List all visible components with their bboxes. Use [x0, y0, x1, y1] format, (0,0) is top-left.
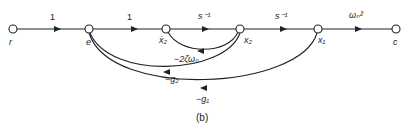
gain-label-x2dot-x2: s⁻¹: [198, 12, 211, 21]
node-x2: [236, 25, 244, 33]
node-label-r: r: [9, 38, 12, 47]
gain-label-r-e: 1: [50, 13, 55, 22]
gain-label-x1-e: −g₁: [196, 95, 209, 104]
node-x2dot: [162, 25, 170, 33]
node-r: [9, 25, 17, 33]
node-label-e: e: [86, 38, 91, 47]
gain-label-x1-c: ωₙ²: [349, 11, 363, 20]
node-x1: [314, 25, 322, 33]
branch-x2-x2dot: [168, 32, 238, 49]
gain-label-x2-x1: s⁻¹: [275, 12, 288, 21]
node-label-x2dot: ẋ₂: [159, 36, 167, 45]
gain-label-x2-e: −g₂: [165, 75, 179, 84]
branch-x1-e: [89, 33, 317, 80]
node-label-x2: x₂: [244, 36, 252, 45]
gain-label-e-x2dot: 1: [127, 13, 132, 22]
node-label-x1: x₁: [318, 36, 325, 45]
gain-label-x2-x2dot: −2ζωₙ: [174, 55, 199, 64]
node-e: [85, 25, 93, 33]
figure-caption: (b): [196, 112, 208, 123]
node-label-c: c: [393, 38, 398, 47]
node-c: [392, 25, 400, 33]
